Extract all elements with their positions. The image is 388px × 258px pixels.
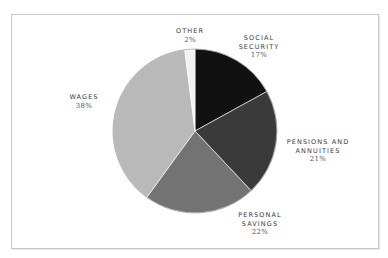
label-text: WAGES	[69, 93, 98, 101]
label-social-security: SOCIAL SECURITY 17%	[239, 34, 280, 60]
label-percent: 2%	[176, 36, 204, 45]
pie-slices	[113, 49, 277, 213]
label-text: ANNUITIES	[296, 147, 341, 155]
label-text: SAVINGS	[242, 220, 278, 228]
label-text: SECURITY	[239, 43, 280, 51]
label-other: OTHER 2%	[176, 27, 204, 44]
label-percent: 17%	[239, 51, 280, 60]
label-text: PENSIONS AND	[287, 138, 350, 146]
label-percent: 22%	[238, 228, 282, 237]
label-pensions-annuities: PENSIONS AND ANNUITIES 21%	[287, 138, 350, 164]
label-text: OTHER	[176, 27, 204, 35]
label-percent: 38%	[69, 102, 98, 111]
label-personal-savings: PERSONAL SAVINGS 22%	[238, 211, 282, 237]
label-percent: 21%	[287, 155, 350, 164]
label-wages: WAGES 38%	[69, 93, 98, 110]
label-text: PERSONAL	[238, 211, 282, 219]
label-text: SOCIAL	[244, 34, 274, 42]
